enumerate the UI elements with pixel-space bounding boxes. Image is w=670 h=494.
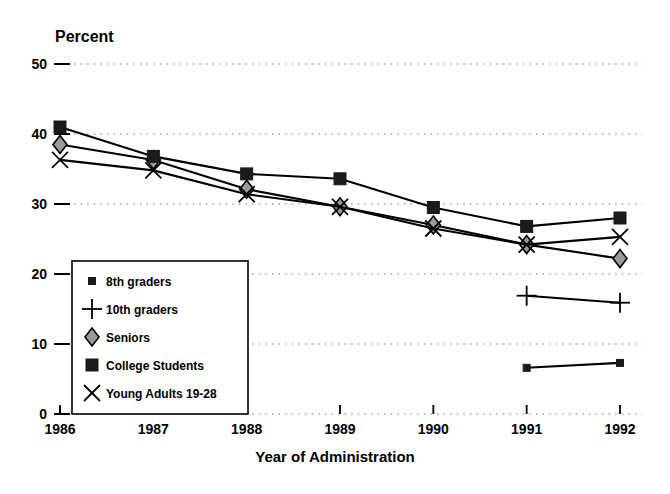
- marker-diamond: [613, 250, 627, 268]
- line-chart: Percent 01020304050 19861987198819891990…: [0, 0, 670, 494]
- legend-marker-filled-square: [86, 359, 98, 371]
- x-axis-ticks: 1986198719881989199019911992: [44, 421, 635, 437]
- marker-filled-square: [147, 150, 159, 162]
- y-tick-label: 0: [39, 406, 47, 422]
- series-10th-graders: [517, 286, 630, 313]
- x-tick-label: 1990: [418, 421, 449, 437]
- legend-item-label: 8th graders: [106, 275, 172, 289]
- marker-small-filled-square: [617, 359, 624, 366]
- y-axis-ticks: 01020304050: [31, 56, 70, 422]
- marker-plus: [517, 286, 537, 306]
- y-tick-label: 40: [31, 126, 47, 142]
- series-line: [527, 363, 620, 368]
- marker-filled-square: [54, 121, 66, 133]
- marker-filled-square: [427, 202, 439, 214]
- y-tick-label: 20: [31, 266, 47, 282]
- y-axis-title: Percent: [55, 28, 114, 45]
- y-tick-label: 30: [31, 196, 47, 212]
- legend-item-label: Young Adults 19-28: [106, 387, 217, 401]
- marker-small-filled-square: [523, 364, 530, 371]
- marker-filled-square: [614, 212, 626, 224]
- chart-legend: 8th graders10th gradersSeniorsCollege St…: [72, 261, 248, 414]
- marker-filled-square: [521, 220, 533, 232]
- marker-filled-square: [241, 168, 253, 180]
- series-seniors: [53, 136, 627, 268]
- legend-marker-small-filled-square: [89, 278, 96, 285]
- marker-filled-square: [334, 173, 346, 185]
- y-tick-label: 10: [31, 336, 47, 352]
- x-axis-title: Year of Administration: [255, 448, 414, 465]
- series-8th-graders: [523, 359, 623, 371]
- legend-item-seniors[interactable]: Seniors: [85, 328, 150, 346]
- x-tick-label: 1988: [231, 421, 262, 437]
- legend-item-label: College Students: [106, 359, 204, 373]
- legend-item-label: Seniors: [106, 331, 150, 345]
- legend-item-label: 10th graders: [106, 303, 178, 317]
- series-line: [527, 296, 620, 303]
- chart-container: Percent 01020304050 19861987198819891990…: [0, 0, 670, 494]
- x-tick-label: 1989: [324, 421, 355, 437]
- y-tick-label: 50: [31, 56, 47, 72]
- marker-diamond: [426, 216, 440, 234]
- x-tick-label: 1991: [511, 421, 542, 437]
- marker-diamond: [53, 136, 67, 154]
- x-tick-label: 1992: [604, 421, 635, 437]
- x-tick-label: 1987: [138, 421, 169, 437]
- x-tick-label: 1986: [44, 421, 75, 437]
- marker-plus: [610, 293, 630, 313]
